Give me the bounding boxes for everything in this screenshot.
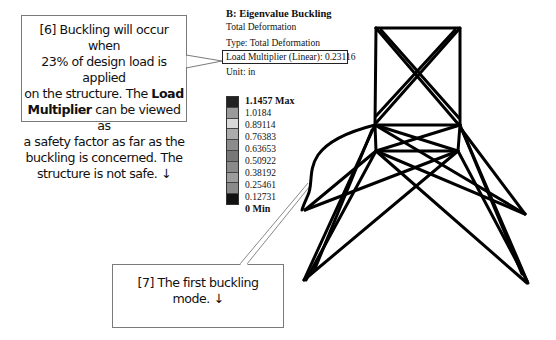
callout-7-pointer	[240, 183, 310, 264]
tower-model	[302, 28, 528, 283]
callout-6-pointer	[186, 55, 222, 68]
model-viewport	[0, 0, 556, 340]
